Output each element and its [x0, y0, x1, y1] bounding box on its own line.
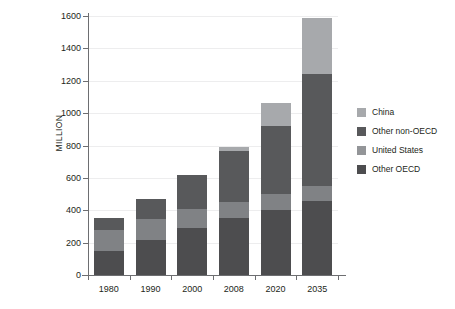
bar-segment: [177, 175, 207, 209]
bar-series-layer: [88, 16, 338, 275]
chart-container: MILLION 02004006008001000120014001600 19…: [0, 0, 455, 309]
legend-swatch-icon: [357, 165, 366, 174]
y-tick-label: 0: [76, 270, 81, 280]
bar-segment: [219, 151, 249, 202]
legend-swatch-icon: [357, 146, 366, 155]
legend-item[interactable]: United States: [357, 141, 455, 160]
bar-group: [302, 18, 332, 275]
x-tick-mark: [130, 275, 131, 280]
bar-segment: [302, 18, 332, 75]
y-tick-label: 800: [66, 141, 81, 151]
bar-segment: [136, 240, 166, 275]
bar-segment: [261, 126, 291, 194]
x-tick-mark: [213, 275, 214, 280]
x-tick-mark: [255, 275, 256, 280]
x-tick-mark: [338, 275, 339, 280]
bar-segment: [94, 230, 124, 251]
y-tick-label: 200: [66, 238, 81, 248]
bar-segment: [302, 74, 332, 186]
bar-segment: [177, 209, 207, 228]
legend-swatch-icon: [357, 108, 366, 117]
bar-segment: [302, 201, 332, 275]
bar-group: [261, 103, 291, 275]
y-tick-label: 1000: [61, 108, 81, 118]
bar-segment: [94, 218, 124, 230]
bar-segment: [136, 219, 166, 240]
plot-area: 02004006008001000120014001600 1980199020…: [88, 16, 338, 275]
bar-segment: [94, 251, 124, 275]
x-axis-line: [82, 275, 346, 276]
bar-segment: [302, 186, 332, 201]
y-tick-label: 1200: [61, 76, 81, 86]
bar-segment: [261, 103, 291, 126]
y-axis-title: MILLION: [54, 88, 64, 178]
legend-label: Other non-OECD: [372, 127, 437, 136]
bar-segment: [136, 199, 166, 219]
chart-legend: ChinaOther non-OECDUnited StatesOther OE…: [357, 103, 455, 179]
bar-segment: [219, 218, 249, 275]
bar-group: [136, 199, 166, 275]
bar-segment: [261, 194, 291, 210]
y-tick-label: 400: [66, 205, 81, 215]
legend-item[interactable]: Other non-OECD: [357, 122, 455, 141]
x-tick-mark: [171, 275, 172, 280]
legend-label: United States: [372, 146, 423, 155]
bar-segment: [177, 228, 207, 275]
y-tick-label: 600: [66, 173, 81, 183]
x-tick-mark: [296, 275, 297, 280]
x-tick-label: 2035: [292, 284, 342, 294]
y-tick-label: 1600: [61, 11, 81, 21]
bar-group: [94, 218, 124, 275]
bar-segment: [219, 147, 249, 151]
bar-segment: [261, 210, 291, 275]
legend-item[interactable]: Other OECD: [357, 160, 455, 179]
legend-label: China: [372, 108, 394, 117]
y-tick-label: 1400: [61, 43, 81, 53]
legend-label: Other OECD: [372, 165, 420, 174]
legend-swatch-icon: [357, 127, 366, 136]
legend-item[interactable]: China: [357, 103, 455, 122]
x-tick-mark: [88, 275, 89, 280]
bar-group: [219, 147, 249, 275]
bar-group: [177, 175, 207, 275]
bar-segment: [219, 202, 249, 218]
